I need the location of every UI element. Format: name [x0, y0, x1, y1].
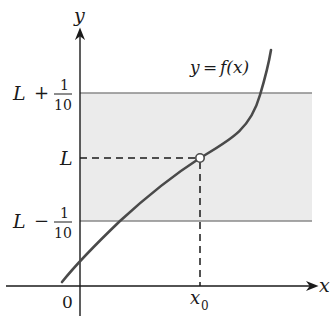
upper-label-L: L	[12, 82, 26, 104]
lower-label-L: L	[12, 210, 26, 232]
upper-label-num: 1	[60, 77, 69, 93]
upper-label-op: +	[34, 82, 49, 103]
x-axis-label: x	[319, 274, 330, 296]
lower-bound-label: L − 1 10	[12, 205, 72, 241]
upper-bound-label: L + 1 10	[12, 77, 72, 113]
function-label-eq: =	[203, 57, 217, 77]
y-axis-label: y	[73, 4, 85, 26]
open-point-circle	[196, 154, 204, 162]
lower-label-op: −	[34, 210, 49, 231]
lower-label-num: 1	[60, 205, 69, 221]
x0-label-x: x	[190, 287, 200, 308]
x0-label: x 0	[190, 287, 209, 313]
lower-label-den: 10	[54, 225, 72, 241]
L-label: L	[59, 147, 73, 169]
function-label-fx: f(x)	[218, 57, 249, 77]
function-label: y = f(x)	[189, 57, 249, 77]
origin-label: 0	[62, 292, 73, 312]
upper-label-den: 10	[54, 97, 72, 113]
x0-label-sub: 0	[201, 299, 209, 313]
function-label-y: y	[189, 57, 200, 77]
limit-diagram: y x 0 y = f(x) L + 1 10 L L − 1 10 x 0	[0, 0, 332, 332]
